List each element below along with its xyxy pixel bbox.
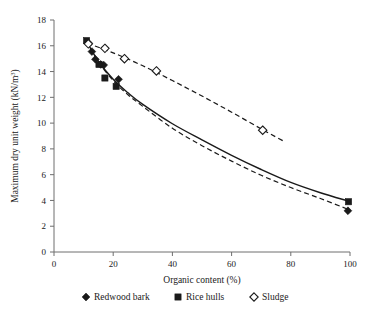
- chart-curves: [87, 41, 349, 209]
- y-axis-tick-label: 16: [37, 41, 47, 51]
- trend-curve: [87, 41, 349, 201]
- y-axis-tick-label: 10: [37, 118, 47, 128]
- x-axis-title: Organic content (%): [163, 275, 240, 286]
- marker-rice-hulls: [102, 75, 108, 81]
- marker-sludge: [258, 126, 266, 134]
- legend-marker-redwood-bark: [82, 293, 90, 301]
- y-axis-tick-label: 6: [42, 170, 47, 180]
- x-axis-tick-label: 80: [286, 259, 296, 269]
- chart-legend: Redwood barkRice hullsSludge: [82, 292, 288, 302]
- legend-label-redwood-bark: Redwood bark: [94, 292, 150, 302]
- legend-marker-sludge: [250, 293, 258, 301]
- trend-curve: [87, 43, 284, 142]
- y-axis-tick-label: 8: [42, 144, 47, 154]
- chart-canvas: 024681012141618 020406080100 Organic con…: [0, 0, 380, 318]
- y-axis-tick-label: 2: [42, 221, 47, 231]
- trend-curve: [87, 41, 349, 209]
- y-axis-tick-label: 14: [37, 67, 47, 77]
- x-axis-tick-label: 0: [52, 259, 57, 269]
- legend-label-rice-hulls: Rice hulls: [186, 292, 225, 302]
- y-axis-title: Maximum dry unit weight (kN/m3): [9, 69, 21, 203]
- y-axis-tick-label: 4: [42, 196, 47, 206]
- y-axis-tick-label: 18: [37, 15, 47, 25]
- x-axis-tick-label: 20: [109, 259, 119, 269]
- y-axis-tick-label: 12: [37, 93, 46, 103]
- y-axis-tick-label: 0: [42, 247, 47, 257]
- x-axis-tick-label: 60: [227, 259, 237, 269]
- chart-figure: 024681012141618 020406080100 Organic con…: [0, 0, 380, 318]
- marker-rice-hulls: [113, 83, 119, 89]
- chart-data-points: [83, 38, 351, 215]
- marker-rice-hulls: [96, 61, 102, 67]
- legend-marker-rice-hulls: [175, 294, 181, 300]
- x-axis-tick-label: 40: [168, 259, 178, 269]
- x-axis: 020406080100: [52, 252, 358, 269]
- y-axis: 024681012141618: [37, 15, 54, 257]
- marker-sludge: [101, 44, 109, 52]
- x-axis-tick-label: 100: [343, 259, 357, 269]
- marker-rice-hulls: [345, 199, 351, 205]
- legend-label-sludge: Sludge: [262, 292, 288, 302]
